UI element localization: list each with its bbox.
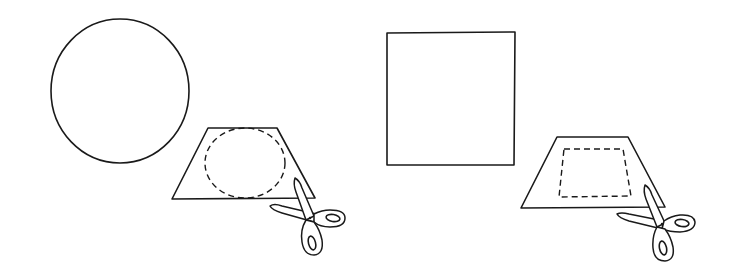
target-square: [387, 32, 515, 165]
right-paper: [521, 137, 665, 208]
trapezoid-paper: [521, 137, 665, 208]
target-circle: [51, 19, 189, 163]
left-paper: [172, 128, 315, 199]
trapezoid-paper: [172, 128, 315, 199]
left-panel: [51, 19, 345, 255]
diagram-canvas: [0, 0, 731, 276]
right-panel: [387, 32, 695, 261]
